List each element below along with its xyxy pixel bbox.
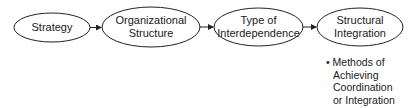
node-structural-integration-line-1: Structural [336, 14, 383, 27]
node-structural-integration-line-2: Integration [334, 27, 386, 40]
node-strategy-label: Strategy [14, 13, 90, 42]
structural-integration-annotation: • Methods of Achieving Coordination or I… [326, 56, 395, 106]
annotation-line-2: Achieving [326, 69, 395, 82]
node-type-of-interdependence-line-1: Type of [240, 14, 276, 27]
annotation-line-4: or Integration [326, 94, 395, 107]
node-strategy-text: Strategy [32, 21, 73, 34]
node-organizational-structure-line-2: Structure [129, 27, 174, 40]
node-organizational-structure-label: Organizational Structure [102, 7, 200, 47]
node-organizational-structure-line-1: Organizational [116, 14, 187, 27]
node-type-of-interdependence-line-2: Interdependence [217, 27, 300, 40]
node-type-of-interdependence-label: Type of Interdependence [214, 8, 303, 46]
annotation-line-3: Coordination [326, 81, 395, 94]
bullet-icon: • [326, 56, 330, 68]
node-structural-integration-label: Structural Integration [317, 8, 403, 46]
annotation-line-1: • Methods of [326, 56, 395, 69]
